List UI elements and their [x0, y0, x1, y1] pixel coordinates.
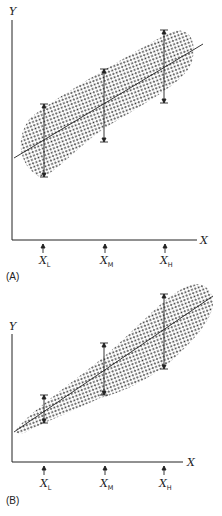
- tick-arrow-b-mid: [103, 466, 107, 475]
- tick-arrow-b-high: [162, 466, 166, 475]
- tick-arrow-a-low: [41, 244, 45, 253]
- figure-canvas: Y X XL: [0, 0, 222, 516]
- panel-b: Y X XL: [6, 284, 213, 506]
- tick-arrow-b-low: [42, 466, 46, 475]
- tick-arrow-a-mid: [103, 244, 107, 253]
- x-axis-label-b: X: [186, 456, 196, 469]
- y-axis-label-a: Y: [9, 5, 18, 18]
- tick-label-b-high: XH: [158, 477, 172, 492]
- tick-label-a-mid: XM: [99, 254, 113, 269]
- panel-label-a: (A): [6, 271, 19, 282]
- y-axis-label-b: Y: [9, 320, 18, 333]
- panel-a: Y X XL: [6, 5, 209, 282]
- tick-arrow-a-high: [163, 244, 167, 253]
- tick-label-a-high: XH: [159, 254, 173, 269]
- panel-label-b: (B): [6, 495, 19, 506]
- tick-label-a-low: XL: [38, 254, 51, 269]
- regression-line-a: [14, 44, 203, 158]
- tick-label-b-low: XL: [39, 477, 52, 492]
- x-axis-label-a: X: [199, 234, 209, 247]
- tick-label-b-mid: XM: [99, 477, 113, 492]
